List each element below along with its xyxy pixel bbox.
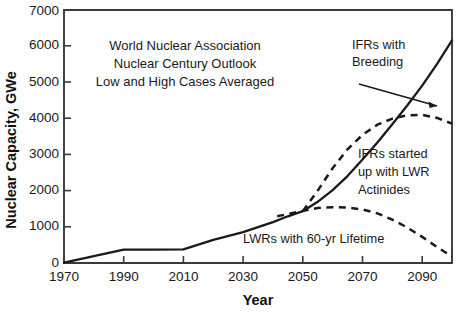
ifrs-actinides-label-line-1: IFRs started	[358, 146, 428, 161]
x-tick-label-2070: 2070	[347, 269, 377, 284]
x-tick-label-2010: 2010	[168, 269, 198, 284]
x-tick-label-1970: 1970	[49, 269, 79, 284]
title-line-3: Low and High Cases Averaged	[96, 74, 274, 89]
title-line-2: Nuclear Century Outlook	[114, 56, 257, 71]
y-tick-label-4000: 4000	[29, 110, 59, 125]
ifrs-actinides-label-line-3: Actinides	[358, 182, 410, 197]
ifrs-breeding-label-line-2: Breeding	[352, 54, 403, 69]
x-tick-label-2050: 2050	[288, 269, 318, 284]
x-tick-label-2030: 2030	[228, 269, 258, 284]
chart-svg: 0 1000 2000 3000 4000 5000 6000 7000 197…	[0, 0, 465, 314]
y-tick-label-1000: 1000	[29, 218, 59, 233]
y-axis-title: Nuclear Capacity, GWe	[3, 71, 19, 228]
y-tick-label-6000: 6000	[29, 37, 59, 52]
title-line-1: World Nuclear Association	[109, 38, 261, 53]
annotation-lwrs-lifetime: LWRs with 60-yr Lifetime	[243, 231, 384, 246]
nuclear-capacity-chart: 0 1000 2000 3000 4000 5000 6000 7000 197…	[0, 0, 465, 314]
x-tick-label-1990: 1990	[109, 269, 139, 284]
y-tick-label-7000: 7000	[29, 3, 59, 18]
x-tick-label-2090: 2090	[407, 269, 437, 284]
y-tick-label-3000: 3000	[29, 146, 59, 161]
y-tick-label-5000: 5000	[29, 74, 59, 89]
ifrs-breeding-label-line-1: IFRs with	[352, 37, 405, 52]
y-tick-label-0: 0	[51, 255, 59, 270]
y-tick-label-2000: 2000	[29, 182, 59, 197]
chart-title-block: World Nuclear Association Nuclear Centur…	[96, 38, 274, 89]
x-axis-title: Year	[243, 292, 274, 308]
ifrs-actinides-label-line-2: up with LWR	[358, 164, 430, 179]
